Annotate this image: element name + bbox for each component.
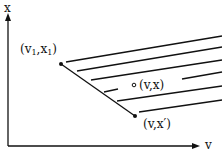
label-v1-x1: (v1,x1) bbox=[20, 43, 57, 57]
point-v-x bbox=[132, 83, 136, 87]
hatch-line-4a bbox=[104, 89, 118, 92]
label-v1-close: ) bbox=[52, 42, 57, 56]
diagonal-segment bbox=[61, 64, 135, 116]
label-v1-mid: ,x bbox=[37, 42, 48, 56]
hatch-line-1 bbox=[66, 36, 222, 62]
diagram-canvas bbox=[0, 0, 224, 149]
hatch-line-2 bbox=[77, 47, 222, 71]
point-v-xprime bbox=[133, 114, 137, 118]
x-axis-label: v bbox=[205, 139, 212, 149]
x-axis-arrowhead bbox=[192, 143, 200, 149]
hatch-line-6 bbox=[139, 100, 222, 112]
hatch-line-3 bbox=[91, 60, 222, 80]
y-axis-label: x bbox=[4, 2, 11, 14]
hatch-line-4b bbox=[182, 72, 222, 79]
label-v-xprime: (v,x′) bbox=[143, 118, 171, 130]
point-v1-x1 bbox=[59, 62, 63, 66]
hatch-line-5 bbox=[117, 86, 222, 101]
label-v-x: (v,x) bbox=[139, 79, 164, 91]
label-v1-open: (v bbox=[20, 42, 31, 56]
